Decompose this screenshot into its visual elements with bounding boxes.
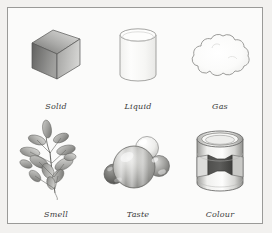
cube-icon	[14, 12, 98, 100]
molecule-icon	[98, 112, 178, 208]
figure-cell-liquid: Liquid	[98, 12, 178, 112]
caption-gas: Gas	[212, 100, 228, 112]
figure-grid: Solid	[8, 8, 262, 223]
plant-sprig-icon	[14, 112, 98, 208]
figure-page: Solid	[0, 0, 272, 233]
figure-frame: Solid	[7, 7, 263, 224]
caption-smell: Smell	[44, 208, 68, 220]
beaker-icon	[98, 12, 178, 100]
caption-solid: Solid	[45, 100, 67, 112]
cloud-icon	[178, 12, 262, 100]
figure-cell-taste: Taste	[98, 112, 178, 220]
figure-cell-solid: Solid	[14, 12, 98, 112]
caption-colour: Colour	[206, 208, 235, 220]
figure-cell-gas: Gas	[178, 12, 262, 112]
figure-cell-smell: Smell	[14, 112, 98, 220]
figure-cell-colour: Colour	[178, 112, 262, 220]
caption-liquid: Liquid	[124, 100, 151, 112]
caption-taste: Taste	[127, 208, 150, 220]
paint-can-icon	[178, 112, 262, 208]
